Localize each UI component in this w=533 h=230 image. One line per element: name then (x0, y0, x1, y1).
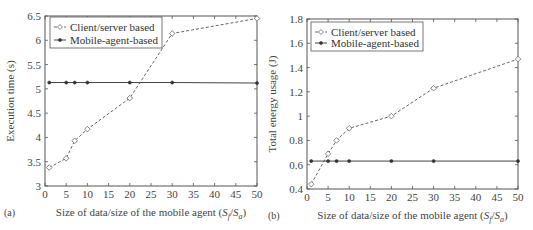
x-tick-label: 5 (325, 191, 331, 203)
y-tick-label: 0.8 (289, 134, 303, 146)
y-tick-label: 1.8 (289, 13, 303, 25)
dot-marker-icon (255, 81, 258, 84)
dot-marker-icon (432, 159, 435, 162)
dot-marker-icon (335, 159, 338, 162)
y-tick-label: 1.2 (289, 86, 303, 98)
y-tick-label: 0.4 (289, 183, 303, 195)
dot-marker-icon (128, 81, 131, 84)
dot-marker-icon (390, 159, 393, 162)
y-tick-label: 6 (36, 34, 42, 46)
x-tick-label: 5 (63, 188, 69, 200)
x-tick-label: 30 (167, 188, 179, 200)
diamond-marker-icon (63, 156, 69, 162)
diamond-marker-icon (431, 85, 437, 91)
dot-marker-icon (171, 81, 174, 84)
dot-marker-icon (516, 159, 519, 162)
y-tick-label: 1 (298, 110, 304, 122)
dot-marker-icon (319, 41, 322, 44)
x-tick-label: 20 (386, 191, 398, 203)
diamond-marker-icon (169, 31, 175, 37)
x-tick-label: 35 (449, 191, 461, 203)
diamond-marker-icon (325, 151, 331, 157)
y-tick-label: 4.5 (27, 107, 41, 119)
legend-label-mobile-agent: Mobile-agent-based (331, 37, 419, 49)
diamond-marker-icon (334, 138, 340, 144)
series-client-server-line (311, 59, 518, 184)
diamond-marker-icon (46, 165, 52, 171)
dot-marker-icon (86, 81, 89, 84)
x-tick-label: 15 (365, 191, 377, 203)
legend-label-client-server: Client/server based (70, 21, 155, 33)
y-axis-label: Execution time (s) (4, 60, 17, 142)
dot-marker-icon (327, 159, 330, 162)
y-tick-label: 3 (36, 180, 42, 192)
figure: 0510152025303540455033.544.555.566.5Exec… (0, 0, 533, 230)
x-tick-label: 25 (146, 188, 158, 200)
y-tick-label: 4 (36, 131, 42, 143)
x-tick-label: 0 (42, 188, 48, 200)
y-tick-label: 0.6 (289, 159, 303, 171)
x-tick-label: 0 (304, 191, 310, 203)
x-tick-label: 10 (344, 191, 356, 203)
dot-marker-icon (348, 159, 351, 162)
diamond-marker-icon (85, 126, 91, 132)
dot-marker-icon (48, 81, 51, 84)
x-tick-label: 50 (513, 191, 525, 203)
dot-marker-icon (73, 81, 76, 84)
diamond-marker-icon (515, 56, 521, 62)
x-tick-label: 10 (82, 188, 94, 200)
dot-marker-icon (310, 159, 313, 162)
y-tick-label: 5.5 (27, 59, 41, 71)
x-tick-label: 20 (124, 188, 136, 200)
chart-panel-b: 051015202530354045500.40.60.811.21.41.61… (266, 13, 524, 224)
chart-panel-a: 0510152025303540455033.544.555.566.5Exec… (4, 10, 263, 221)
x-tick-label: 40 (209, 188, 221, 200)
x-axis-label: Size of data/size of the mobile agent (S… (317, 209, 508, 224)
x-tick-label: 30 (428, 191, 440, 203)
diamond-marker-icon (389, 113, 395, 119)
y-axis-label: Total energy usage (J) (266, 55, 279, 152)
panel-label: (a) (4, 207, 15, 219)
x-tick-label: 25 (407, 191, 419, 203)
dot-marker-icon (65, 81, 68, 84)
y-tick-label: 1.6 (289, 37, 303, 49)
y-tick-label: 6.5 (27, 10, 41, 22)
x-axis-label: Size of data/size of the mobile agent (S… (56, 206, 247, 221)
x-tick-label: 50 (252, 188, 264, 200)
x-tick-label: 45 (491, 191, 503, 203)
y-tick-label: 5 (36, 83, 42, 95)
legend-label-mobile-agent: Mobile-agent-based (70, 34, 158, 46)
x-tick-label: 40 (470, 191, 482, 203)
diamond-marker-icon (308, 181, 314, 187)
y-tick-label: 1.4 (289, 62, 303, 74)
x-tick-label: 35 (188, 188, 200, 200)
y-tick-label: 3.5 (27, 156, 41, 168)
legend: Client/server basedMobile-agent-based (50, 17, 162, 48)
x-tick-label: 15 (103, 188, 115, 200)
legend: Client/server basedMobile-agent-based (311, 22, 423, 51)
x-tick-label: 45 (230, 188, 242, 200)
panel-label: (b) (268, 210, 280, 222)
dot-marker-icon (58, 38, 61, 41)
